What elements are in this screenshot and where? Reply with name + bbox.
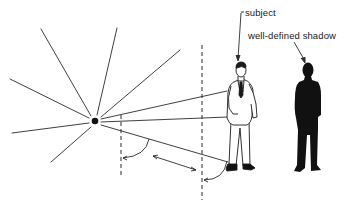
light-rays [10,28,228,162]
shadow-figure [294,63,321,173]
shadow-head [303,63,314,78]
ray [51,127,91,162]
ray [10,79,89,118]
ray-to-head [101,91,227,119]
distance-arrow [153,155,196,171]
shadow-body [294,76,321,172]
subject-figure [226,62,257,171]
shadow-leader-arrowhead [301,57,305,63]
subject-leader [238,13,241,59]
subject-trousers [229,120,250,166]
ray-to-feet [101,125,228,162]
ray [101,50,180,117]
angle-arc-far [204,161,227,182]
light-source-icon [92,118,99,125]
ray [97,28,117,115]
ray [12,123,89,133]
subject-shoe-left [226,164,237,171]
angle-arc-near [123,139,149,160]
diagram-canvas: subject well-defined shadow [0,0,355,205]
ray-to-hand [101,117,228,122]
shadow-label: well-defined shadow [248,30,336,41]
subject-shoe-right [243,164,255,170]
subject-leader-arrowhead [236,55,240,61]
subject-label: subject [245,7,276,18]
ray [41,29,91,116]
